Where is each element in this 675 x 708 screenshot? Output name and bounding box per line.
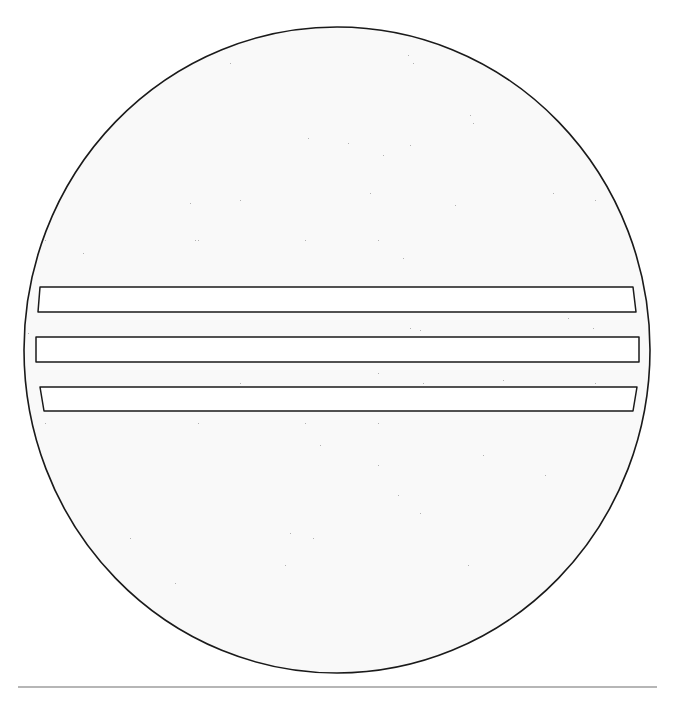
horizontal-bar-1: [38, 287, 636, 312]
horizontal-bar-3: [40, 387, 637, 411]
horizontal-bar-2: [36, 337, 639, 362]
horizontal-bars: [36, 287, 639, 411]
stippled-disc-figure: [0, 0, 675, 708]
